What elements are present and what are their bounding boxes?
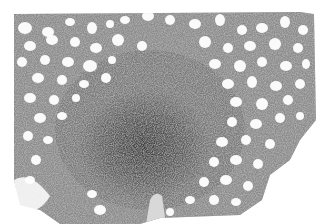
histology-micrograph	[0, 0, 324, 224]
micrograph-frame: Grayscale histology micrograph showing d…	[0, 0, 324, 224]
